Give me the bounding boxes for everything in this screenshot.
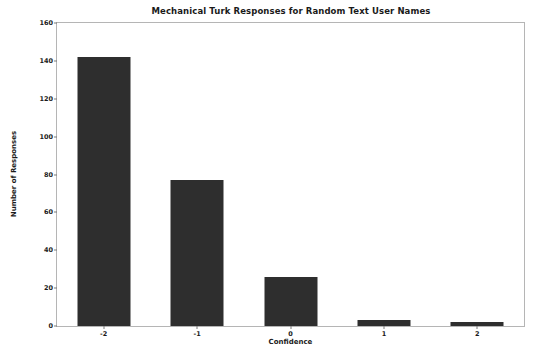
bar	[451, 322, 504, 326]
plot-area: 020406080100120140160 -2-1012	[56, 22, 525, 327]
x-tick-mark	[197, 326, 198, 329]
y-tick-label: 160	[39, 19, 53, 27]
y-tick-label: 120	[39, 95, 53, 103]
x-tick-mark	[383, 326, 384, 329]
x-tick-label: 2	[475, 330, 480, 338]
bars-layer	[57, 23, 524, 326]
chart-title: Mechanical Turk Responses for Random Tex…	[56, 6, 526, 16]
y-tick-label: 20	[44, 284, 53, 292]
x-tick-label: 1	[382, 330, 387, 338]
y-axis-label: Number of Responses	[10, 131, 18, 217]
bar	[171, 180, 224, 326]
y-tick-label: 100	[39, 133, 53, 141]
x-tick-mark	[103, 326, 104, 329]
y-tick-label: 0	[48, 322, 53, 330]
y-tick-label: 80	[44, 171, 53, 179]
bar	[264, 277, 317, 326]
x-tick-mark	[477, 326, 478, 329]
x-tick-label: -2	[100, 330, 107, 338]
y-tick-label: 40	[44, 246, 53, 254]
x-tick-mark	[290, 326, 291, 329]
y-tick-label: 60	[44, 208, 53, 216]
bar	[77, 57, 130, 326]
x-tick-label: -1	[193, 330, 200, 338]
x-tick-label: 0	[288, 330, 293, 338]
y-tick-label: 140	[39, 57, 53, 65]
bar	[357, 320, 410, 326]
x-axis-label: Confidence	[56, 338, 525, 346]
chart-figure: Mechanical Turk Responses for Random Tex…	[0, 0, 545, 360]
